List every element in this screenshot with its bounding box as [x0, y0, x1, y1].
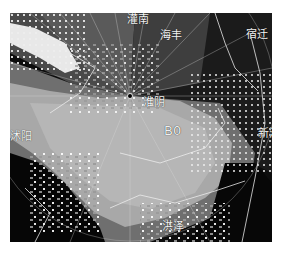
map-label-top-left: 灌南 — [127, 14, 149, 25]
map-label-center: 淮阴 — [143, 97, 165, 108]
radar-echo-field — [10, 13, 272, 242]
map-label-bottom: 洪泽 — [162, 221, 184, 232]
radar-image: 灌南 海丰 宿迁 淮阴 B0 沭阳 新沂 洪泽 — [10, 13, 272, 242]
map-label-top: 海丰 — [160, 30, 182, 41]
map-label-left: 沭阳 — [10, 131, 32, 142]
map-label-top-right: 宿迁 — [246, 29, 268, 40]
echo-label-b0: B0 — [164, 124, 181, 137]
map-label-right: 新沂 — [258, 128, 272, 139]
